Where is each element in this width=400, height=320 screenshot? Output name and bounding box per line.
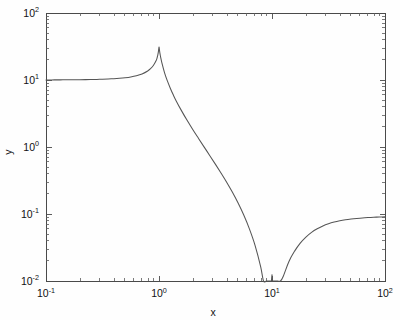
y-axis-tick-labels: 10-210-1100101102	[21, 5, 39, 286]
x-tick-label: 100	[151, 286, 167, 299]
axes-box	[46, 13, 385, 281]
x-tick-label: 101	[264, 286, 280, 299]
x-tick-label: 10-1	[37, 286, 55, 299]
data-series-line	[46, 47, 385, 282]
x-axis-ticks	[46, 13, 385, 281]
x-axis-label: x	[210, 306, 216, 318]
x-tick-label: 102	[377, 286, 393, 299]
y-tick-label: 100	[23, 139, 39, 152]
axes-frame	[46, 13, 385, 281]
chart-figure: 10-1100101102 10-210-1100101102 x y	[0, 0, 400, 320]
series-group	[46, 47, 385, 282]
y-axis-label: y	[2, 149, 14, 155]
y-tick-label: 102	[23, 5, 39, 18]
log-log-line-chart: 10-1100101102 10-210-1100101102 x y	[0, 0, 400, 320]
y-tick-label: 101	[23, 72, 39, 85]
y-tick-label: 10-2	[21, 273, 39, 286]
x-axis-tick-labels: 10-1100101102	[37, 286, 393, 299]
y-tick-label: 10-1	[21, 206, 39, 219]
y-axis-ticks	[46, 13, 385, 281]
